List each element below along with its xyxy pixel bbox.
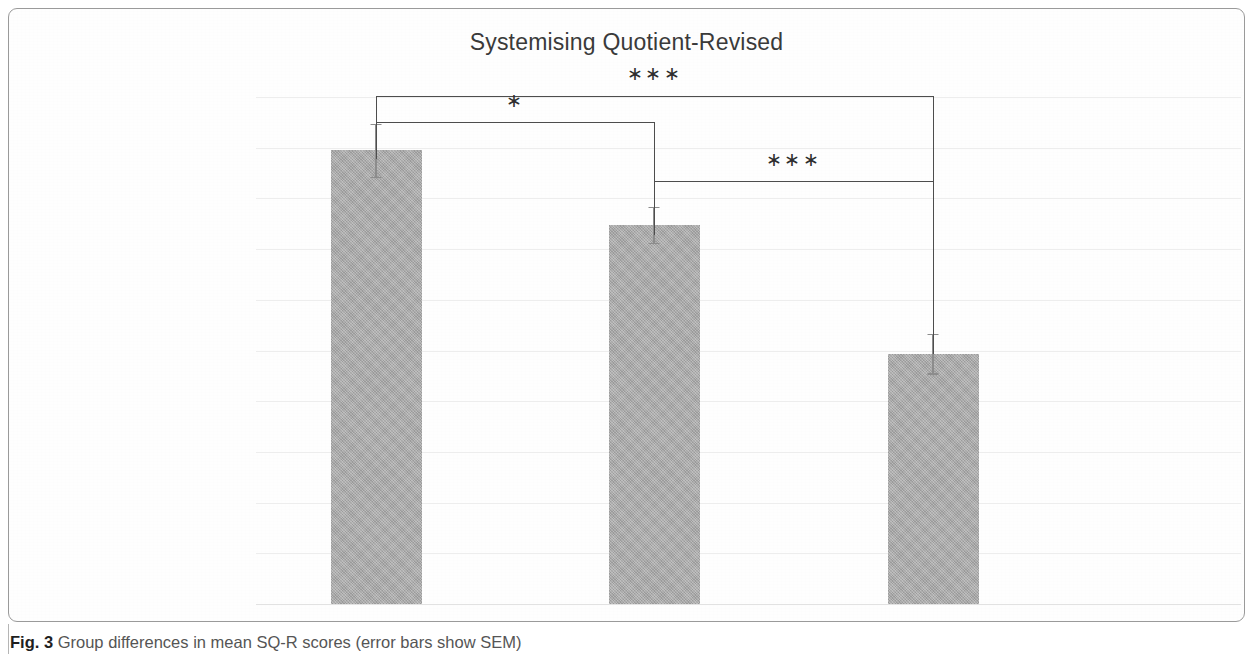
significance-stars-nonsavants-vs-controls: ∗∗∗ [766,150,822,169]
significance-bracket-savants-vs-nonsavants [376,122,654,123]
significance-bracket-stem-left [376,122,377,159]
figure-root: Systemising Quotient-Revised 10090807060… [0,0,1253,668]
significance-bracket-stem-left [654,181,655,235]
caption-rule [8,624,9,654]
significance-bracket-nonsavants-vs-controls [654,181,933,182]
significance-bracket-savants-vs-controls [376,96,933,97]
gridline [256,604,1241,605]
error-bar-cap-lower [649,243,660,244]
chart-frame: Systemising Quotient-Revised 10090807060… [8,8,1245,622]
error-bar-cap-lower [928,373,939,374]
figure-caption: Fig. 3 Group differences in mean SQ-R sc… [10,633,1240,652]
gridline [256,148,1241,149]
significance-bracket-stem-right [933,181,934,300]
chart-title: Systemising Quotient-Revised [9,29,1244,56]
significance-stars-savants-vs-nonsavants: ∗ [506,91,525,110]
plot-area: 1009080706050403020100Autistic-savantsAu… [256,97,1241,604]
significance-stars-savants-vs-controls: ∗∗∗ [627,64,683,83]
bar-autistic-savants [331,150,422,604]
figure-number: Fig. 3 [10,633,53,651]
figure-caption-text: Group differences in mean SQ-R scores (e… [58,633,522,651]
error-bar-cap-lower [371,177,382,178]
bar-autistic-nonsavants [609,225,700,604]
bar-controls [888,354,979,604]
